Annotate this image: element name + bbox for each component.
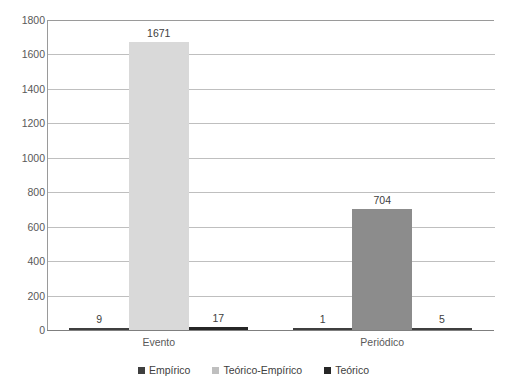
bar-value-label: 1671	[129, 27, 189, 39]
y-axis-tick-label: 1600	[3, 49, 45, 60]
legend-item[interactable]: Empírico	[138, 364, 190, 376]
y-axis-tick-label: 1000	[3, 152, 45, 163]
y-axis-tick-label: 200	[3, 290, 45, 301]
x-axis-tick-label: Evento	[47, 336, 271, 348]
bar-emp-rico-evento	[69, 328, 129, 331]
bar-value-label: 9	[69, 313, 129, 325]
y-axis-labels: 180016001400120010008006004002000	[0, 20, 45, 330]
bar-value-label: 17	[189, 312, 249, 324]
y-axis-tick-label: 1800	[3, 15, 45, 26]
bar-te-rico-emp-rico-evento	[129, 42, 189, 330]
bar-te-rico-evento	[189, 327, 249, 330]
legend-swatch-icon	[212, 367, 219, 374]
y-axis-tick-label: 600	[3, 221, 45, 232]
legend-item-label: Teórico	[335, 364, 369, 376]
y-axis-tick-label: 1400	[3, 83, 45, 94]
legend-item-label: Teórico-Empírico	[223, 364, 302, 376]
legend-swatch-icon	[324, 367, 331, 374]
legend-item[interactable]: Teórico-Empírico	[212, 364, 302, 376]
bar-te-rico-peri-dico	[412, 328, 472, 331]
x-axis-line	[47, 330, 494, 331]
y-axis-tick-label: 800	[3, 187, 45, 198]
bar-value-label: 704	[352, 194, 412, 206]
bar-emp-rico-peri-dico	[293, 328, 353, 331]
bar-value-label: 1	[293, 313, 353, 325]
chart-title	[0, 0, 507, 3]
bar-chart: 180016001400120010008006004002000 916711…	[0, 0, 507, 384]
bar-te-rico-emp-rico-peri-dico	[352, 209, 412, 330]
y-axis-tick-label: 1200	[3, 118, 45, 129]
bar-value-label: 5	[412, 313, 472, 325]
chart-legend: EmpíricoTeórico-EmpíricoTeórico	[0, 364, 507, 376]
legend-swatch-icon	[138, 367, 145, 374]
bars-layer: 916711717045	[47, 20, 494, 330]
y-axis-tick-label: 400	[3, 256, 45, 267]
legend-item[interactable]: Teórico	[324, 364, 369, 376]
y-axis-tick-label: 0	[3, 325, 45, 336]
legend-item-label: Empírico	[149, 364, 190, 376]
x-axis-tick-label: Periódico	[271, 336, 495, 348]
